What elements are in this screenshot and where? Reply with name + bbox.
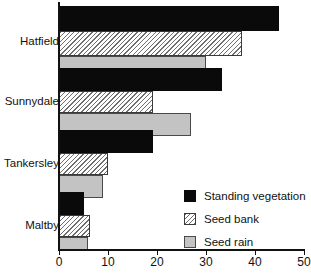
legend-item-seed-rain: Seed rain — [184, 232, 306, 251]
legend-item-seed-bank: Seed bank — [184, 209, 306, 228]
category-label-hatfield: Hatfield — [20, 35, 59, 47]
legend: Standing vegetation Seed bank Seed rain — [184, 186, 306, 255]
bar-chart: 0 10 20 30 40 50 Hatfield Sunnydale Tank… — [0, 0, 311, 277]
black-square-icon — [184, 190, 196, 202]
bar-tankersley-seed-bank — [59, 153, 108, 175]
x-tick-label-50: 50 — [289, 256, 311, 269]
bar-hatfield-seed-bank — [59, 31, 242, 56]
legend-label-standing-vegetation: Standing vegetation — [204, 190, 306, 202]
bar-sunnydale-standing-vegetation — [59, 68, 222, 91]
bar-maltby-seed-bank — [59, 215, 90, 237]
hatched-square-icon — [184, 213, 196, 225]
bar-hatfield-standing-vegetation — [59, 6, 279, 31]
x-tick-label-20: 20 — [142, 256, 172, 269]
x-tick-label-0: 0 — [44, 256, 74, 269]
category-label-sunnydale: Sunnydale — [5, 95, 59, 107]
bar-tankersley-standing-vegetation — [59, 130, 153, 153]
legend-label-seed-rain: Seed rain — [204, 236, 253, 248]
category-label-tankersley: Tankersley — [4, 157, 59, 169]
bar-maltby-standing-vegetation — [59, 192, 84, 215]
legend-label-seed-bank: Seed bank — [204, 213, 259, 225]
x-tick-label-10: 10 — [93, 256, 123, 269]
x-tick-label-40: 40 — [240, 256, 270, 269]
category-label-maltby: Maltby — [25, 219, 59, 231]
legend-item-standing-vegetation: Standing vegetation — [184, 186, 306, 205]
grey-square-icon — [184, 236, 196, 248]
bar-sunnydale-seed-bank — [59, 91, 153, 113]
x-tick-label-30: 30 — [191, 256, 221, 269]
